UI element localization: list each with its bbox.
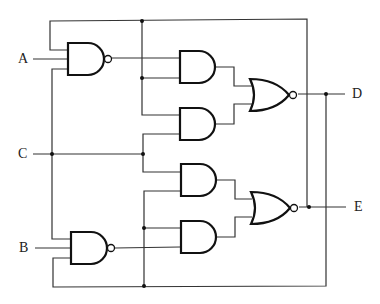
input-label-b: B <box>19 241 28 255</box>
output-label-e: E <box>354 200 363 214</box>
and-gate-3 <box>181 164 216 196</box>
logic-circuit-diagram <box>0 0 380 304</box>
output-label-d: D <box>352 87 362 101</box>
nand-gate-2 <box>71 232 115 264</box>
input-label-a: A <box>18 52 28 66</box>
nor-gate-1 <box>250 79 297 111</box>
nand-gate-1 <box>68 43 112 75</box>
and-gate-2 <box>180 108 215 140</box>
nor-gate-2 <box>251 192 298 224</box>
and-gate-4 <box>181 221 216 253</box>
input-label-c: C <box>18 147 27 161</box>
and-gate-1 <box>180 51 215 83</box>
